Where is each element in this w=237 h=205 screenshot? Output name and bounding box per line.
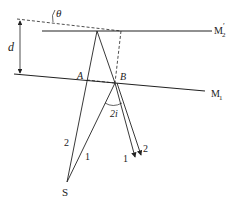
ray-2-reflected-segment (97, 31, 115, 83)
point-a-label: A (76, 70, 84, 81)
ray-1-label: 1 (85, 151, 90, 162)
interference-diagram: θ d A B 2i S 2 1 1 2 M 2 ′ M 1 (0, 0, 237, 205)
angle-2i-arc (105, 103, 122, 106)
ray-2-incident (67, 31, 97, 182)
point-b-label: B (120, 71, 126, 82)
m2-prime-label: M 2 ′ (214, 22, 226, 39)
m1-label: M 1 (211, 88, 223, 102)
svg-text:′: ′ (223, 22, 225, 31)
ray-2-label: 2 (64, 137, 69, 148)
theta-label: θ (56, 7, 62, 19)
ray-2-outgoing (117, 83, 141, 155)
dashed-tilt-line (17, 19, 121, 31)
svg-text:1: 1 (219, 94, 223, 102)
svg-text:2: 2 (222, 31, 226, 39)
theta-arc (52, 10, 55, 22)
ray-1-incident (67, 83, 115, 182)
source-label: S (62, 186, 68, 198)
ray-1-outgoing (115, 83, 135, 157)
out-ray-1-label: 1 (123, 153, 128, 164)
d-label: d (8, 40, 15, 54)
angle-2i-label: 2i (110, 108, 118, 119)
out-ray-2-label: 2 (143, 143, 148, 154)
